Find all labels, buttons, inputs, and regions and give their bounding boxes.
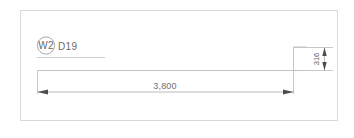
drawing-svg: W2 D19 3,800 316 xyxy=(0,0,354,138)
drawing-frame-border xyxy=(21,11,338,121)
span-dimension-text: 3,800 xyxy=(153,81,177,91)
technical-drawing-canvas: W2 D19 3,800 316 xyxy=(0,0,354,138)
member-tag-text: W2 xyxy=(38,40,54,51)
depth-dimension-text: 316 xyxy=(312,53,321,66)
member-label-text: D19 xyxy=(58,41,77,52)
